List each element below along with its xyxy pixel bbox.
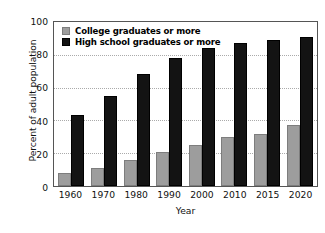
bar-group xyxy=(218,22,251,186)
x-tick-2020: 2020 xyxy=(284,189,317,200)
bar-college-2010 xyxy=(221,137,234,186)
bar-college-2015 xyxy=(254,134,267,186)
legend-item: College graduates or more xyxy=(62,26,220,36)
y-tick-0: 0 xyxy=(18,182,48,193)
legend: College graduates or moreHigh school gra… xyxy=(62,26,220,47)
y-tick-100: 100 xyxy=(18,16,48,27)
legend-label: College graduates or more xyxy=(75,26,201,36)
x-axis-title: Year xyxy=(53,205,318,216)
y-tick-80: 80 xyxy=(18,49,48,60)
x-tick-1990: 1990 xyxy=(153,189,186,200)
legend-item: High school graduates or more xyxy=(62,37,220,47)
bar-college-1980 xyxy=(124,160,137,186)
bar-highschool-1990 xyxy=(169,58,182,186)
bar-highschool-2015 xyxy=(267,40,280,186)
bar-college-2000 xyxy=(189,145,202,186)
bar-group xyxy=(251,22,284,186)
bar-chart: Percent of adult population 020406080100… xyxy=(0,0,325,233)
x-axis-tick-labels: 19601970198019902000201020152020 xyxy=(53,189,318,200)
bar-college-1960 xyxy=(58,173,71,186)
bar-highschool-1970 xyxy=(104,96,117,186)
x-tick-1980: 1980 xyxy=(120,189,153,200)
y-tick-40: 40 xyxy=(18,115,48,126)
bar-group xyxy=(283,22,316,186)
x-tick-2000: 2000 xyxy=(186,189,219,200)
bar-college-1990 xyxy=(156,152,169,186)
bar-highschool-2020 xyxy=(300,37,313,186)
bar-highschool-1980 xyxy=(137,74,150,186)
bar-highschool-1960 xyxy=(71,115,84,186)
y-axis-title: Percent of adult population xyxy=(27,16,38,186)
y-tick-60: 60 xyxy=(18,82,48,93)
y-tick-20: 20 xyxy=(18,148,48,159)
bar-college-1970 xyxy=(91,168,104,186)
bar-college-2020 xyxy=(287,125,300,186)
x-tick-1960: 1960 xyxy=(54,189,87,200)
x-tick-2015: 2015 xyxy=(251,189,284,200)
legend-swatch-icon xyxy=(62,27,70,35)
x-tick-1970: 1970 xyxy=(87,189,120,200)
x-tick-2010: 2010 xyxy=(218,189,251,200)
legend-swatch-icon xyxy=(62,38,70,46)
bar-highschool-2000 xyxy=(202,48,215,186)
legend-label: High school graduates or more xyxy=(75,37,220,47)
bar-highschool-2010 xyxy=(234,43,247,186)
